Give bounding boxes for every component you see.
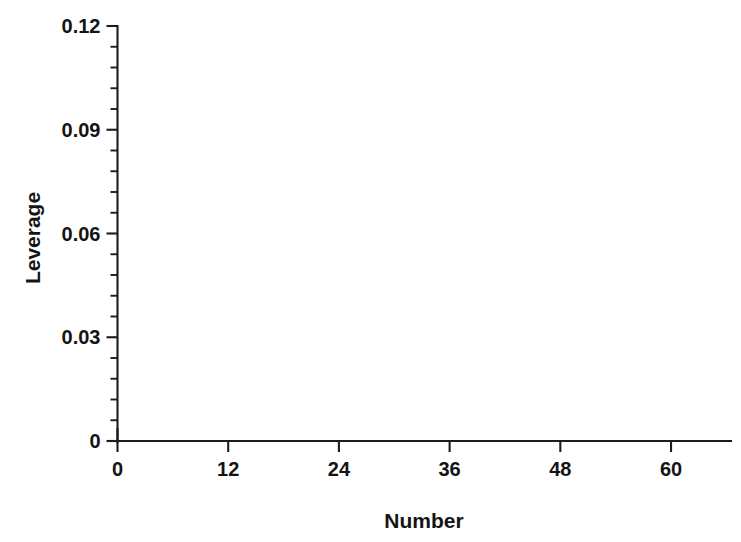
scatter-plot-canvas: 00.030.060.090.12 01224364860 Leverage N… xyxy=(0,0,741,542)
x-tick-label: 60 xyxy=(660,458,682,480)
data-point-marker xyxy=(307,374,316,384)
data-point-marker xyxy=(381,374,390,384)
data-point-marker xyxy=(556,311,565,321)
data-point-marker xyxy=(602,356,611,366)
data-point-marker xyxy=(168,374,177,384)
y-axis-ticks xyxy=(107,26,118,441)
data-point-marker xyxy=(141,266,150,276)
y-tick-label: 0 xyxy=(89,430,100,452)
data-point-marker xyxy=(620,374,629,384)
data-point-marker xyxy=(464,374,473,384)
y-axis-tick-labels: 00.030.060.090.12 xyxy=(62,15,101,452)
data-point-marker xyxy=(611,356,620,366)
data-point-marker xyxy=(196,311,205,321)
data-point-marker xyxy=(224,322,233,332)
data-point-marker xyxy=(178,374,187,384)
data-point-markers xyxy=(122,42,721,384)
data-point-marker xyxy=(639,374,648,384)
data-point-marker xyxy=(150,87,159,97)
data-point-marker xyxy=(510,374,519,384)
data-point-marker xyxy=(233,353,242,363)
y-tick-label: 0.12 xyxy=(62,15,101,37)
data-point-marker xyxy=(261,311,270,321)
data-point-marker xyxy=(298,211,307,221)
data-point-marker xyxy=(270,374,279,384)
data-point-marker xyxy=(390,332,399,342)
data-point-marker xyxy=(694,356,703,366)
data-point-marker xyxy=(325,353,334,363)
data-point-marker xyxy=(279,93,288,103)
data-point-marker xyxy=(500,374,509,384)
data-point-marker xyxy=(713,211,722,221)
data-point-marker xyxy=(648,356,657,366)
data-point-marker xyxy=(131,211,140,221)
x-tick-label: 48 xyxy=(549,458,571,480)
data-point-marker xyxy=(657,374,666,384)
data-point-marker xyxy=(593,374,602,384)
data-point-marker xyxy=(436,374,445,384)
data-point-marker xyxy=(251,374,260,384)
data-point-marker xyxy=(417,374,426,384)
data-point-marker xyxy=(491,374,500,384)
data-point-marker xyxy=(122,249,131,259)
data-point-marker xyxy=(537,374,546,384)
data-point-marker xyxy=(371,311,380,321)
data-point-marker xyxy=(205,374,214,384)
data-point-marker xyxy=(334,374,343,384)
x-tick-label: 12 xyxy=(217,458,239,480)
x-axis-tick-labels: 01224364860 xyxy=(112,458,682,480)
data-point-marker xyxy=(584,332,593,342)
data-point-marker xyxy=(676,315,685,325)
data-point-marker xyxy=(399,374,408,384)
data-point-marker xyxy=(445,374,454,384)
data-point-marker xyxy=(547,374,556,384)
y-axis-title: Leverage xyxy=(21,192,44,284)
x-tick-label: 0 xyxy=(112,458,123,480)
data-point-marker xyxy=(353,332,362,342)
data-point-marker xyxy=(408,374,417,384)
data-point-marker xyxy=(454,374,463,384)
data-point-marker xyxy=(242,356,251,366)
data-point-marker xyxy=(482,374,491,384)
data-point-marker xyxy=(528,374,537,384)
data-point-marker xyxy=(667,374,676,384)
data-point-marker xyxy=(685,374,694,384)
axis-lines xyxy=(118,26,732,442)
data-point-marker xyxy=(565,246,574,256)
y-tick-label: 0.09 xyxy=(62,119,101,141)
data-point-marker xyxy=(519,374,528,384)
data-point-marker xyxy=(159,266,168,276)
data-point-marker xyxy=(362,374,371,384)
data-point-marker xyxy=(214,374,223,384)
data-point-marker xyxy=(427,374,436,384)
data-point-marker xyxy=(574,170,583,180)
x-axis-title: Number xyxy=(384,509,463,532)
data-point-marker xyxy=(344,329,353,339)
data-point-marker xyxy=(473,353,482,363)
leverage-scatter-figure: 00.030.060.090.12 01224364860 Leverage N… xyxy=(0,0,741,542)
x-tick-label: 36 xyxy=(438,458,460,480)
y-tick-label: 0.03 xyxy=(62,326,101,348)
y-tick-label: 0.06 xyxy=(62,223,101,245)
data-point-marker xyxy=(703,291,712,301)
data-point-marker xyxy=(630,356,639,366)
data-point-marker xyxy=(316,353,325,363)
data-point-marker xyxy=(288,225,297,235)
x-tick-label: 24 xyxy=(328,458,351,480)
data-point-marker xyxy=(187,42,196,52)
